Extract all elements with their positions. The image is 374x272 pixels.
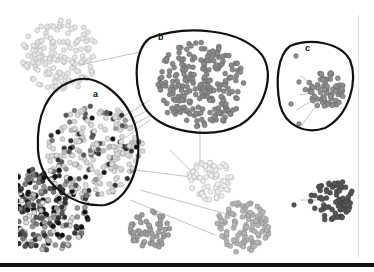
cluster-label-a: a bbox=[93, 89, 98, 99]
cluster-label-c: c bbox=[305, 43, 310, 53]
divider-rule bbox=[0, 263, 374, 267]
network-graph bbox=[0, 0, 374, 272]
cluster-label-b: b bbox=[158, 32, 164, 42]
panel-border bbox=[358, 15, 359, 257]
network-figure: a b c bbox=[0, 0, 374, 272]
